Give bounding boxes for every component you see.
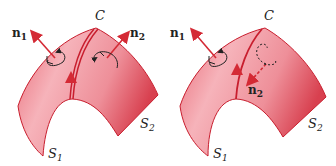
surface-s1-label: S1 [48, 146, 63, 163]
normal-n1-arrow [32, 32, 55, 58]
right-panel: C n1 n2 S1 S2 [170, 8, 326, 163]
normal-n1-label: n1 [170, 26, 185, 42]
figure: C n1 n2 S1 S2 C n1 n2 S1 S2 [0, 0, 336, 166]
surfaces-diagram: C n1 n2 S1 S2 C n1 n2 S1 S2 [0, 0, 336, 166]
surface-s1-label: S1 [213, 146, 228, 163]
normal-n1-label: n1 [12, 26, 27, 42]
surface-s2-label: S2 [308, 116, 323, 133]
normal-n1-arrow [192, 30, 216, 58]
left-panel: C n1 n2 S1 S2 [12, 8, 158, 163]
surface-s2-label: S2 [140, 116, 155, 133]
surface-left [18, 28, 158, 156]
normal-n2-label: n2 [130, 26, 145, 42]
curve-label: C [95, 8, 105, 23]
curve-label: C [264, 8, 274, 23]
